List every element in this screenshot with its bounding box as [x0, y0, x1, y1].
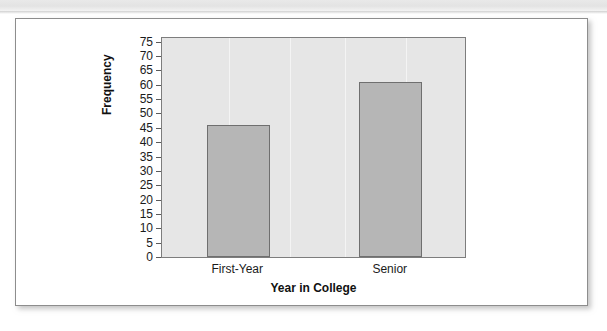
plot-area: [161, 37, 466, 258]
y-tick-label: 75: [140, 35, 153, 50]
grid-line-vertical: [345, 38, 346, 257]
y-tick-mark: [156, 157, 161, 158]
bar-chart: 051015202530354045505560657075 Frequency…: [16, 19, 589, 307]
x-axis-title: Year in College: [161, 281, 466, 295]
y-tick-label: 20: [140, 193, 153, 208]
bar-senior: [359, 82, 422, 257]
y-tick-mark: [156, 128, 161, 129]
y-tick-mark: [156, 56, 161, 57]
page-top-band-shadow: [0, 11, 607, 14]
y-tick-label: 30: [140, 164, 153, 179]
y-tick-label: 65: [140, 63, 153, 78]
y-tick-mark: [156, 142, 161, 143]
x-tick-label-first-year: First-Year: [177, 262, 297, 276]
y-tick-mark: [156, 99, 161, 100]
y-tick-mark: [156, 214, 161, 215]
y-tick-label: 40: [140, 135, 153, 150]
y-tick-mark: [156, 200, 161, 201]
grid-line-vertical: [290, 38, 291, 257]
y-tick-mark: [156, 113, 161, 114]
y-tick-label: 60: [140, 78, 153, 93]
y-axis: 051015202530354045505560657075: [16, 37, 161, 258]
x-tick-label-senior: Senior: [330, 262, 450, 276]
y-tick-label: 25: [140, 178, 153, 193]
y-tick-mark: [156, 42, 161, 43]
y-tick-mark: [156, 228, 161, 229]
y-tick-label: 45: [140, 121, 153, 136]
page-top-band: [0, 0, 607, 11]
y-tick-label: 55: [140, 92, 153, 107]
bar-first-year: [207, 125, 270, 257]
y-tick-mark: [156, 243, 161, 244]
y-tick-mark: [156, 70, 161, 71]
y-tick-mark: [156, 257, 161, 258]
y-tick-mark: [156, 185, 161, 186]
y-tick-label: 50: [140, 106, 153, 121]
y-tick-label: 35: [140, 150, 153, 165]
figure-frame: 051015202530354045505560657075 Frequency…: [15, 18, 588, 306]
y-axis-title: Frequency: [100, 54, 114, 115]
y-tick-label: 70: [140, 49, 153, 64]
y-tick-label: 5: [146, 236, 153, 251]
y-tick-label: 10: [140, 221, 153, 236]
y-tick-mark: [156, 85, 161, 86]
y-tick-label: 0: [146, 250, 153, 265]
y-tick-mark: [156, 171, 161, 172]
y-tick-label: 15: [140, 207, 153, 222]
